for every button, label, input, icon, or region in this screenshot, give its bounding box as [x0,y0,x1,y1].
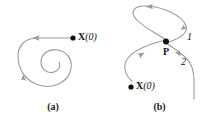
initial-point-marker-a [70,35,75,40]
trajectory-figure: X(0) (a) P 1 2 X(0) (b) [0,0,213,126]
crossing-point-label-p: P [163,47,169,57]
initial-point-label-a: X(0) [78,32,97,42]
panel-b: P 1 2 X(0) (b) [106,0,213,126]
initial-point-label-b: X(0) [136,81,155,91]
panel-a: X(0) (a) [0,0,106,126]
initial-point-arg-a: (0) [85,31,97,42]
crossing-point-marker-p [163,39,169,45]
trajectory-arrowhead-lower-left-icon [137,53,145,59]
spiral-trajectory-path [18,38,72,86]
panel-a-caption: (a) [0,101,106,112]
panel-b-caption: (b) [106,101,213,112]
branch-label-1: 1 [187,32,192,42]
branch-label-2: 2 [181,57,186,67]
initial-point-arg-b: (0) [143,80,155,91]
initial-point-marker-b [128,84,133,89]
